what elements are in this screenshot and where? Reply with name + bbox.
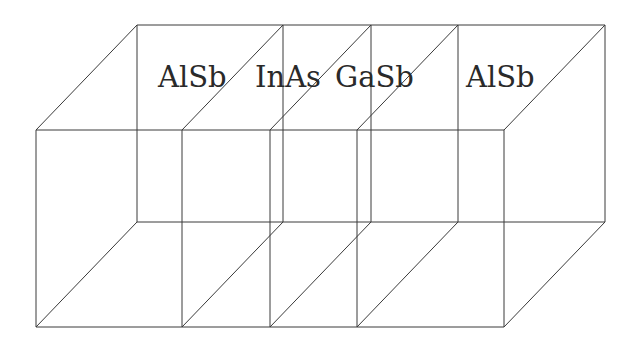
layer-label-inas: InAs [255,60,321,94]
bottom-depth-edge-3 [357,222,458,327]
bottom-depth-edge-0 [36,222,137,327]
layer-label-alsb-right: AlSb [465,60,535,94]
layer-label-gasb: GaSb [335,60,414,94]
layer-labels: AlSb InAs GaSb AlSb [157,60,535,94]
heterostructure-diagram: AlSb InAs GaSb AlSb [0,0,633,345]
bottom-depth-edge-1 [182,222,283,327]
bottom-depth-edge-4 [504,222,605,327]
top-depth-edge-0 [36,25,137,130]
bottom-depth-edge-2 [270,222,371,327]
layer-label-alsb-left: AlSb [157,60,227,94]
